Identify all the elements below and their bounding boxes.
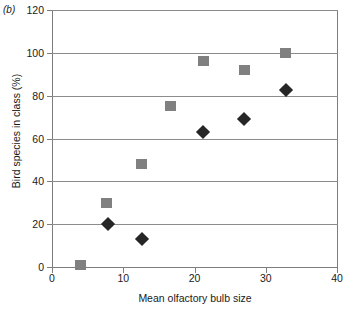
x-tick-label-20: 20: [189, 272, 201, 284]
data-point-dark-diamonds-1: [135, 232, 149, 246]
x-tick-labels: 010203040: [52, 272, 338, 288]
data-point-dark-diamonds-2: [196, 125, 210, 139]
data-point-gray-squares-0: [75, 260, 86, 270]
y-tick-mark-80: [47, 96, 52, 97]
data-point-gray-squares-2: [136, 159, 147, 169]
y-tick-label-120: 120: [26, 4, 44, 16]
data-point-dark-diamonds-0: [101, 217, 115, 231]
y-tick-label-0: 0: [38, 261, 44, 273]
y-tick-mark-100: [47, 53, 52, 54]
x-tick-label-40: 40: [331, 272, 343, 284]
x-tick-label-10: 10: [117, 272, 129, 284]
y-tick-label-40: 40: [32, 175, 44, 187]
data-point-gray-squares-1: [101, 198, 112, 208]
x-axis-label: Mean olfactory bulb size: [52, 292, 338, 304]
data-point-gray-squares-6: [280, 48, 291, 58]
gridline-y-120: [52, 10, 338, 11]
y-tick-mark-40: [47, 181, 52, 182]
gridline-y-20: [52, 224, 338, 225]
data-point-gray-squares-3: [165, 101, 176, 111]
y-tick-labels: 020406080100120: [0, 10, 44, 268]
y-tick-label-100: 100: [26, 47, 44, 59]
gridline-y-60: [52, 139, 338, 140]
x-tick-label-30: 30: [260, 272, 272, 284]
y-tick-label-80: 80: [32, 90, 44, 102]
gridline-y-40: [52, 181, 338, 182]
gridline-y-80: [52, 96, 338, 97]
figure-panel-b: (b) 020406080100120 010203040 Mean olfac…: [0, 0, 345, 309]
y-tick-mark-60: [47, 139, 52, 140]
y-tick-mark-120: [47, 10, 52, 11]
data-point-gray-squares-4: [198, 56, 209, 66]
y-tick-mark-20: [47, 224, 52, 225]
x-tick-label-0: 0: [49, 272, 55, 284]
y-axis-label: Bird species in class (%): [10, 51, 22, 211]
data-point-dark-diamonds-3: [237, 112, 251, 126]
data-point-gray-squares-5: [239, 65, 250, 75]
y-tick-label-60: 60: [32, 133, 44, 145]
y-tick-label-20: 20: [32, 218, 44, 230]
gridline-y-100: [52, 53, 338, 54]
plot-area: [52, 10, 338, 268]
